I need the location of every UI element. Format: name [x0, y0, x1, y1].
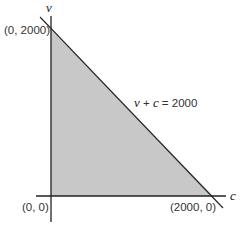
point-label-origin: (0, 0): [22, 201, 49, 213]
point-label-0-2000: (0, 2000): [4, 24, 50, 36]
x-axis-label: c: [230, 188, 236, 203]
constraint-equation-label: v + c = 2000: [134, 95, 197, 110]
point-label-2000-0: (2000, 0): [170, 201, 216, 213]
feasible-region-diagram: v c (0, 2000) (0, 0) (2000, 0) v + c = 2…: [0, 0, 241, 227]
y-axis-label: v: [46, 0, 52, 15]
